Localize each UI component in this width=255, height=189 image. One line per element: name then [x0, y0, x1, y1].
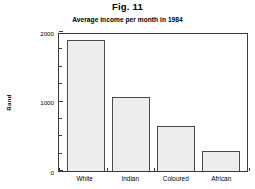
y-tick-label: 1000 — [20, 99, 54, 106]
bar-indian[interactable] — [112, 97, 150, 171]
bar-slot — [112, 34, 150, 171]
y-axis-title-container: Rand — [2, 33, 14, 172]
bar-coloured[interactable] — [157, 126, 195, 171]
x-tick-label-white: White — [66, 174, 104, 186]
y-tick-label: 0 — [20, 169, 54, 176]
chart-title: Average income per month in 1984 — [0, 15, 255, 24]
bar-african[interactable] — [202, 151, 240, 171]
x-tick — [249, 168, 250, 171]
y-axis-title: Rand — [5, 94, 12, 110]
x-axis-tick-labels: WhiteIndianColouredAfrican — [58, 174, 248, 186]
bar-slot — [202, 34, 240, 171]
bar-series — [59, 34, 247, 171]
y-tick-label: 2000 — [20, 30, 54, 37]
bar-white[interactable] — [67, 40, 105, 171]
x-tick-label-african: African — [202, 174, 240, 186]
y-tick-major — [59, 31, 63, 32]
x-tick-label-indian: Indian — [111, 174, 149, 186]
bar-slot — [67, 34, 105, 171]
plot-area — [58, 33, 248, 172]
bar-slot — [157, 34, 195, 171]
figure-caption: Fig. 11 — [0, 1, 255, 13]
x-tick-label-coloured: Coloured — [157, 174, 195, 186]
figure-container: Fig. 11 Average income per month in 1984… — [0, 0, 255, 189]
